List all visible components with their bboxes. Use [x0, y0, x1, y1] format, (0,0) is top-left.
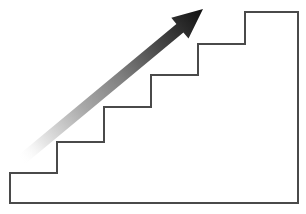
figure-canvas — [0, 0, 306, 214]
staircase-arrow-illustration — [0, 0, 306, 214]
